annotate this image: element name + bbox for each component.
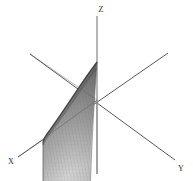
y-axis-label: Y bbox=[178, 164, 184, 173]
z-axis-label: Z bbox=[99, 5, 104, 14]
plot-canvas: X Y Z bbox=[0, 0, 193, 181]
surface-mesh-horizontal bbox=[36, 55, 106, 181]
x-axis-label: X bbox=[8, 157, 14, 166]
surface-sheet bbox=[36, 55, 106, 181]
surface-plot-svg: X Y Z bbox=[0, 0, 193, 181]
